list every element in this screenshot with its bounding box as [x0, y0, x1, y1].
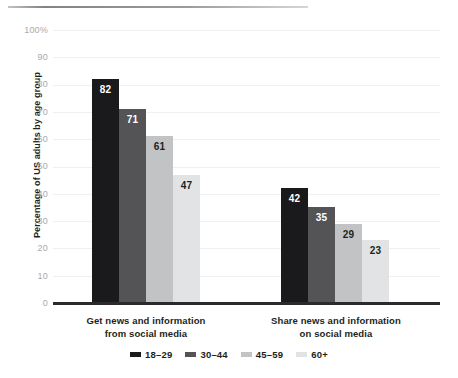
legend-item-45-59[interactable]: 45–59 [241, 349, 283, 360]
bar-share-news-45-59[interactable]: 29 [335, 224, 362, 303]
bar-get-news-45-59[interactable]: 61 [146, 136, 173, 303]
plot-area: 82 71 61 47 42 35 29 23 [53, 30, 440, 303]
bar-share-news-60-plus[interactable]: 23 [362, 240, 389, 303]
category-label-share-news: Share news and information on social med… [216, 314, 456, 340]
x-axis-line [53, 302, 440, 305]
bar-value-get-news-30-44: 71 [119, 114, 146, 125]
y-tick-60: 60 [8, 134, 48, 144]
grouped-bar-chart: Percentage of US adults by age group 100… [0, 0, 458, 378]
category-label-share-news-line1: Share news and information [216, 314, 456, 327]
bar-share-news-30-44[interactable]: 35 [308, 207, 335, 303]
legend-item-18-29[interactable]: 18–29 [130, 349, 172, 360]
legend-swatch-icon-60-plus [296, 352, 307, 357]
legend-label-30-44: 30–44 [200, 349, 227, 360]
bar-value-get-news-18-29: 82 [92, 84, 119, 95]
bar-group-get-news: 82 71 61 47 [92, 30, 200, 303]
chart-legend: 18–29 30–44 45–59 60+ [0, 349, 458, 360]
y-tick-20: 20 [8, 243, 48, 253]
y-tick-30: 30 [8, 216, 48, 226]
legend-swatch-icon-30-44 [185, 352, 196, 357]
y-tick-0: 0 [8, 298, 48, 308]
bar-value-share-news-18-29: 42 [281, 193, 308, 204]
y-tick-100: 100% [8, 25, 48, 35]
bar-share-news-18-29[interactable]: 42 [281, 188, 308, 303]
bar-value-get-news-45-59: 61 [146, 141, 173, 152]
bar-value-share-news-60-plus: 23 [362, 245, 389, 256]
legend-label-60-plus: 60+ [311, 349, 328, 360]
legend-item-60-plus[interactable]: 60+ [296, 349, 328, 360]
bar-value-share-news-45-59: 29 [335, 229, 362, 240]
legend-label-18-29: 18–29 [145, 349, 172, 360]
y-tick-90: 90 [8, 52, 48, 62]
bar-get-news-30-44[interactable]: 71 [119, 109, 146, 303]
y-tick-10: 10 [8, 271, 48, 281]
y-tick-80: 80 [8, 79, 48, 89]
bar-value-get-news-60-plus: 47 [173, 180, 200, 191]
y-tick-70: 70 [8, 107, 48, 117]
legend-swatch-icon-45-59 [241, 352, 252, 357]
y-tick-50: 50 [8, 161, 48, 171]
bar-get-news-60-plus[interactable]: 47 [173, 175, 200, 303]
legend-swatch-icon-18-29 [130, 352, 141, 357]
y-tick-40: 40 [8, 189, 48, 199]
legend-item-30-44[interactable]: 30–44 [185, 349, 227, 360]
bar-value-share-news-30-44: 35 [308, 212, 335, 223]
category-label-share-news-line2: on social media [216, 327, 456, 340]
bar-get-news-18-29[interactable]: 82 [92, 79, 119, 303]
legend-label-45-59: 45–59 [256, 349, 283, 360]
bar-group-share-news: 42 35 29 23 [281, 30, 389, 303]
